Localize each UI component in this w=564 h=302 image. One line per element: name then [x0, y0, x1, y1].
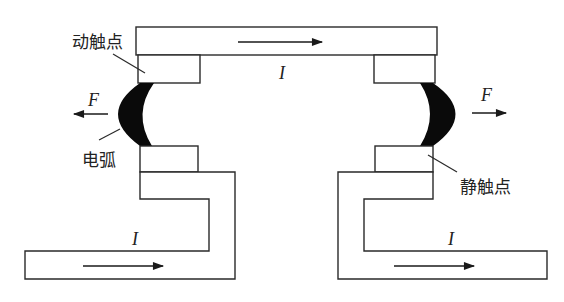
label-current-top: I	[278, 63, 286, 83]
label-current-right: I	[447, 229, 455, 249]
label-current-left: I	[131, 229, 139, 249]
static-conductor-left	[25, 172, 235, 279]
static-conductor-right	[338, 172, 547, 279]
moving-bridge-bar	[136, 27, 437, 55]
arc-contact-diagram: 动触点 电弧 静触点 I I I F F	[0, 0, 564, 302]
moving-contact-left	[138, 55, 200, 83]
arc-right	[420, 83, 456, 146]
label-force-right: F	[480, 85, 493, 105]
static-contact-left	[140, 146, 198, 172]
label-arc: 电弧	[82, 150, 116, 170]
leader-arc	[99, 129, 120, 140]
moving-contact-right	[374, 55, 435, 83]
label-moving-contact: 动触点	[72, 32, 123, 52]
arc-left	[118, 83, 154, 146]
label-force-left: F	[87, 90, 100, 110]
label-static-contact: 静触点	[460, 177, 511, 197]
static-contact-right	[375, 146, 433, 172]
